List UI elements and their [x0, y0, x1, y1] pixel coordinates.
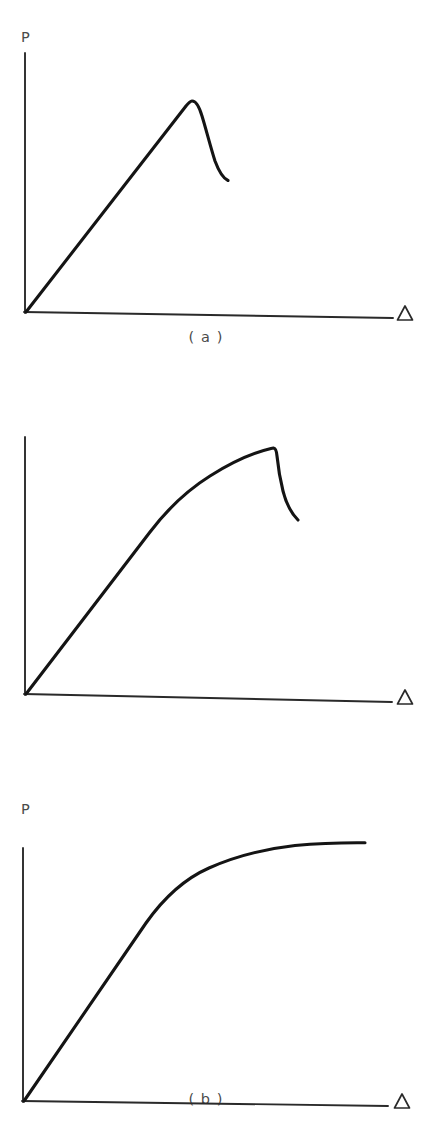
panel-c: P ( c ) [0, 760, 430, 1141]
delta-symbol-c-icon [395, 1094, 410, 1108]
panel-a-plot [0, 0, 430, 380]
panel-c-plot [0, 760, 430, 1141]
panel-b: P ( b ) [0, 380, 430, 760]
panel-a-x-axis [24, 312, 393, 318]
panel-b-x-axis [24, 694, 392, 702]
panel-a-curve [26, 101, 228, 312]
panel-c-curve [24, 843, 365, 1101]
delta-symbol-a-icon [398, 306, 413, 320]
panel-b-plot [0, 380, 430, 760]
panel-a-y-axis-label: P [21, 30, 30, 45]
figure-root: P ( a ) P ( b ) P ( c ) [0, 0, 430, 1141]
panel-a-caption: ( a ) [0, 330, 412, 345]
panel-c-x-axis [22, 1101, 388, 1106]
panel-b-curve [26, 448, 298, 694]
panel-a: P ( a ) [0, 0, 430, 380]
delta-symbol-b-icon [398, 690, 413, 704]
